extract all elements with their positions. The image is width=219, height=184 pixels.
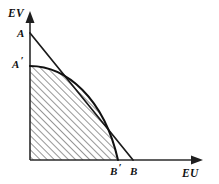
point-label-b-prime-mark: ′ <box>119 161 122 173</box>
point-label-a: A <box>16 27 24 39</box>
point-label-b: B <box>129 165 137 177</box>
horizontal-axis-label: EU <box>181 167 199 179</box>
point-label-b-prime: B <box>109 165 117 177</box>
point-label-a-prime: A <box>11 58 19 70</box>
point-label-a-prime-mark: ′ <box>21 54 24 66</box>
figure-canvas: EV EU A A ′ B ′ B <box>0 0 219 184</box>
utility-possibility-frontier-figure: EV EU A A ′ B ′ B <box>0 0 219 184</box>
attainable-utility-set <box>30 66 118 160</box>
horizontal-axis-arrow-icon <box>191 156 203 165</box>
vertical-axis-label: EV <box>7 7 25 19</box>
vertical-axis-arrow-icon <box>26 11 35 23</box>
